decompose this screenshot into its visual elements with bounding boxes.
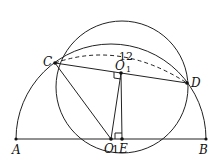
segment-O1E xyxy=(121,73,122,139)
segment-OO1 xyxy=(111,73,121,139)
label-B: B xyxy=(198,143,208,157)
diagram-canvas: A B C D O 1 E O 1 12 xyxy=(0,0,221,163)
label-A: A xyxy=(11,143,21,157)
label-tick: 1 xyxy=(112,143,119,156)
segment-CO xyxy=(55,63,111,139)
label-D: D xyxy=(190,76,201,90)
label-E: E xyxy=(118,142,128,156)
label-O1-sub: 1 xyxy=(126,65,131,74)
geometry-diagram: A B C D O 1 E O 1 12 xyxy=(0,0,221,163)
arc-label-12: 12 xyxy=(119,50,133,63)
label-C: C xyxy=(43,55,52,69)
